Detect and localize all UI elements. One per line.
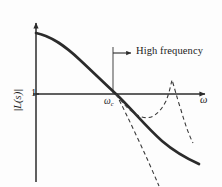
unity-gain-tick-label: 1 [31,88,36,99]
x-axis-label: ω [200,95,207,106]
high-frequency-annotation-label: High frequency [136,46,203,57]
crossover-frequency-label: ωc [104,97,114,107]
curve-steep-rolloff-response [116,94,159,186]
bode-magnitude-diagram: High frequency 1 ω ωc |L(s)| [0,0,222,187]
crossover-subscript: c [111,100,114,107]
y-axis-label: |L(s)| [13,72,24,128]
crossover-omega-symbol: ω [104,96,111,106]
